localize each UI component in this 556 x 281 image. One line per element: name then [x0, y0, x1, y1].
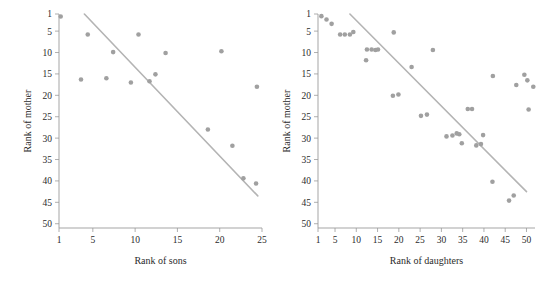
y-tick-label: 40: [43, 176, 53, 186]
y-tick-label: 30: [302, 134, 312, 144]
y-tick-label: 1: [306, 9, 311, 19]
y-axis-title: Rank of mother: [281, 89, 292, 152]
x-tick-label: 30: [437, 235, 447, 245]
data-point: [450, 133, 455, 138]
y-tick-label: 15: [302, 69, 312, 79]
y-tick-label: 30: [43, 134, 53, 144]
data-point: [147, 79, 152, 84]
data-point: [163, 51, 168, 56]
y-tick-label: 1: [47, 9, 52, 19]
data-point: [460, 141, 465, 146]
x-tick-label: 1: [57, 235, 62, 245]
scatter-panel-daughters: 1510152025303540455015101520253035404550…: [278, 0, 556, 281]
figure-container: 151015202530354045501510152025Rank of so…: [0, 0, 556, 281]
data-point: [391, 30, 396, 35]
x-tick-label: 45: [500, 235, 510, 245]
x-tick-label: 1: [316, 235, 321, 245]
data-point: [153, 72, 158, 77]
data-point: [526, 107, 531, 112]
data-point: [230, 144, 235, 149]
y-tick-label: 45: [43, 198, 53, 208]
data-point: [255, 84, 260, 89]
y-tick-label: 25: [43, 112, 53, 122]
data-point: [111, 50, 116, 55]
y-tick-label: 35: [302, 155, 312, 165]
data-point: [425, 112, 430, 117]
data-point: [338, 32, 343, 37]
x-tick-label: 50: [522, 235, 532, 245]
data-point: [514, 83, 519, 88]
data-point: [79, 77, 84, 82]
data-point: [465, 107, 470, 112]
y-tick-label: 20: [302, 91, 312, 101]
x-axis-title: Rank of daughters: [390, 255, 463, 266]
y-axis-title: Rank of mother: [22, 89, 33, 152]
y-tick-label: 15: [43, 69, 53, 79]
axis-lines: [59, 14, 262, 228]
axis-lines: [318, 14, 535, 228]
data-point: [491, 74, 496, 79]
data-point: [129, 80, 134, 85]
data-point: [419, 114, 424, 119]
y-tick-label: 40: [302, 176, 312, 186]
y-tick-label: 25: [302, 112, 312, 122]
data-point: [254, 181, 259, 186]
x-axis-title: Rank of sons: [134, 255, 186, 266]
data-point: [85, 32, 90, 37]
data-point: [329, 22, 334, 27]
x-tick-label: 5: [333, 235, 338, 245]
data-point: [470, 107, 475, 112]
data-point: [206, 127, 211, 132]
x-tick-label: 25: [257, 235, 267, 245]
data-point: [444, 134, 449, 139]
data-point: [525, 78, 530, 83]
data-point: [481, 133, 486, 138]
scatter-panel-sons: 151015202530354045501510152025Rank of so…: [0, 0, 278, 281]
data-point: [364, 58, 369, 63]
data-point: [490, 179, 495, 184]
data-point: [474, 143, 479, 148]
data-point: [324, 17, 329, 22]
scatter-plot-0: 151015202530354045501510152025Rank of so…: [0, 0, 278, 281]
x-tick-label: 40: [479, 235, 489, 245]
data-point: [479, 142, 484, 147]
data-point: [522, 72, 527, 77]
x-tick-label: 10: [130, 235, 140, 245]
y-tick-label: 50: [302, 219, 312, 229]
data-point: [531, 84, 536, 89]
data-point: [431, 48, 436, 53]
x-tick-label: 20: [394, 235, 404, 245]
y-tick-label: 10: [43, 48, 53, 58]
data-point: [457, 132, 462, 137]
data-point: [376, 47, 381, 52]
data-point: [219, 49, 224, 54]
data-point: [104, 76, 109, 81]
data-point: [343, 32, 348, 37]
data-point: [241, 176, 246, 181]
y-tick-label: 5: [306, 27, 311, 37]
y-tick-label: 50: [43, 219, 53, 229]
x-tick-label: 15: [173, 235, 183, 245]
y-tick-label: 20: [43, 91, 53, 101]
data-point: [58, 14, 63, 19]
data-point: [136, 32, 141, 37]
x-tick-label: 5: [90, 235, 95, 245]
x-tick-label: 10: [352, 235, 362, 245]
x-tick-label: 25: [415, 235, 425, 245]
scatter-plot-1: 1510152025303540455015101520253035404550…: [278, 0, 556, 281]
data-point: [507, 198, 512, 203]
y-tick-label: 45: [302, 198, 312, 208]
data-point: [351, 30, 356, 35]
x-tick-label: 15: [373, 235, 383, 245]
data-point: [396, 92, 401, 97]
data-point: [319, 14, 324, 19]
regression-line: [350, 14, 527, 192]
data-point: [409, 65, 414, 70]
x-tick-label: 20: [215, 235, 225, 245]
data-point: [391, 93, 396, 98]
regression-line: [84, 14, 257, 196]
x-tick-label: 35: [458, 235, 468, 245]
data-point: [365, 47, 370, 52]
y-tick-label: 5: [47, 27, 52, 37]
data-point: [511, 193, 516, 198]
